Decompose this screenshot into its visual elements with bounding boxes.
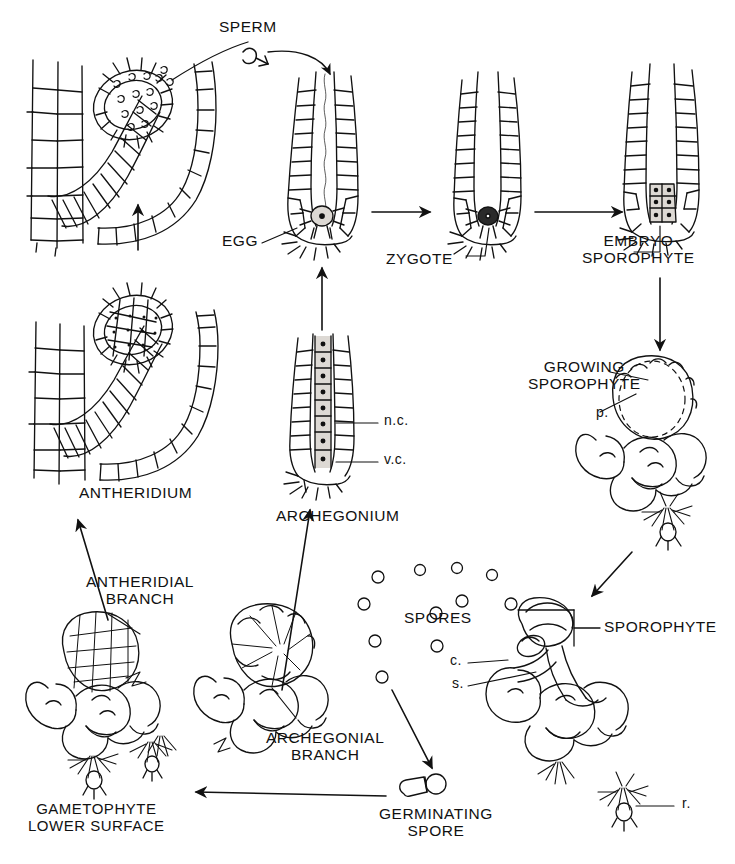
label-capsule: c. (450, 653, 462, 669)
label-sperm: SPERM (219, 18, 277, 35)
label-germinating-spore: GERMINATING SPORE (379, 805, 493, 840)
antheridium-dehiscing-drawing (27, 58, 216, 256)
label-zygote: ZYGOTE (386, 250, 453, 267)
germinating-spore-drawing (400, 774, 446, 796)
archegonium-drawing (284, 334, 354, 500)
label-archegonium: ARCHEGONIUM (276, 507, 399, 524)
label-sporophyte: SPOROPHYTE (604, 618, 717, 635)
label-growing-sporophyte: GROWING SPOROPHYTE (528, 358, 641, 393)
embryo-sporophyte-drawing (618, 64, 699, 256)
label-ventral-canal: v.c. (384, 452, 407, 468)
label-neck-canal: n.c. (384, 413, 409, 429)
label-rhizoids: r. (682, 796, 691, 812)
archegonium-egg-drawing (282, 72, 358, 260)
label-gametophyte-lower-surface: GAMETOPHYTE LOWER SURFACE (28, 801, 165, 835)
label-embryo-sporophyte: EMBRYO SPOROPHYTE (582, 232, 695, 267)
label-egg: EGG (222, 232, 258, 249)
label-antheridial-branch: ANTHERIDIAL BRANCH (86, 573, 194, 608)
label-antheridium: ANTHERIDIUM (79, 484, 192, 501)
antheridium-drawing (29, 283, 218, 484)
label-spores: SPORES (404, 609, 472, 626)
zygote-drawing (448, 72, 521, 260)
label-seta: s. (452, 676, 464, 692)
label-placenta: p. (596, 405, 609, 421)
diagram-canvas: SPERM EGG ZYGOTE EMBRYO SPOROPHYTE GROWI… (0, 0, 735, 864)
label-archegonial-branch: ARCHEGONIAL BRANCH (266, 729, 384, 764)
